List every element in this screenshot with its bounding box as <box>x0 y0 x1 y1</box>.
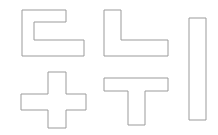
vertical-bar-shape[interactable] <box>189 18 206 120</box>
shape-canvas-root <box>0 0 218 135</box>
shape-canvas <box>0 0 218 135</box>
